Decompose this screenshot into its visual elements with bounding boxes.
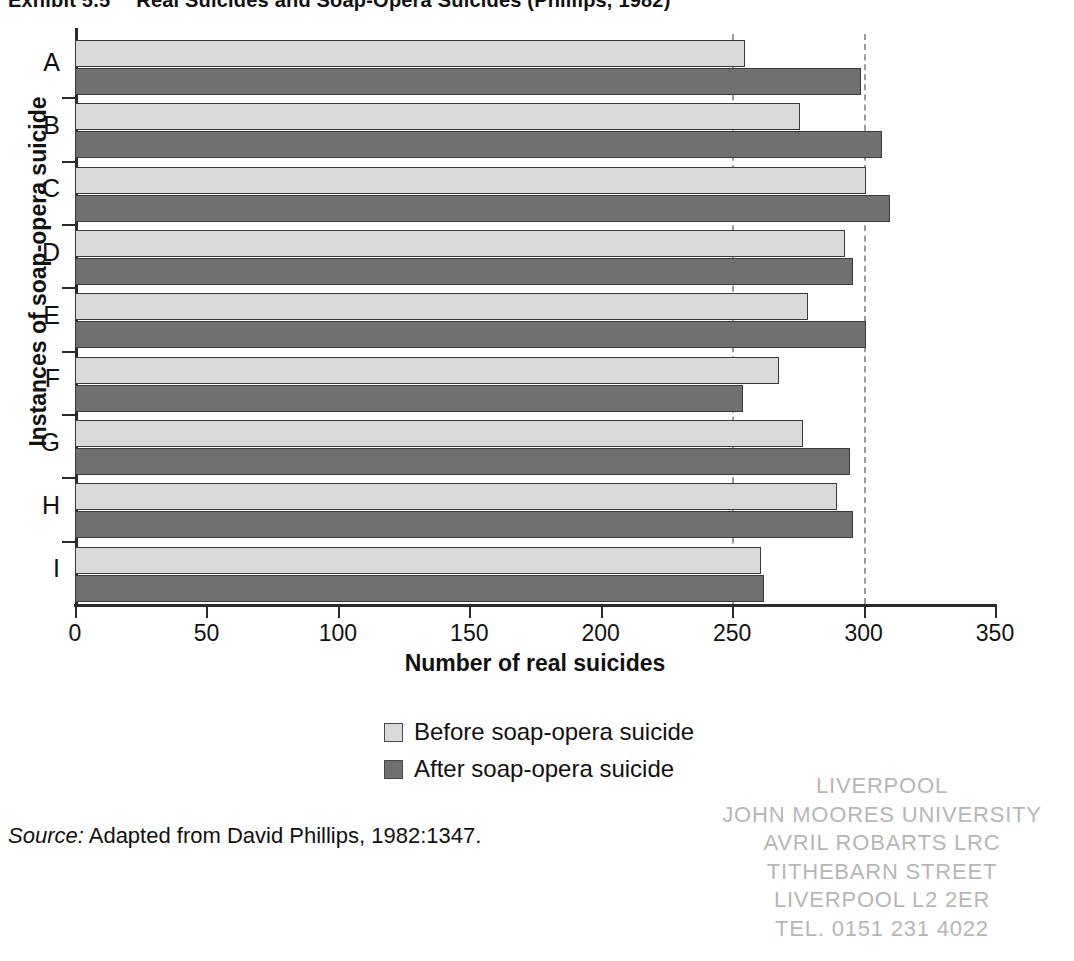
y-tick xyxy=(62,541,75,543)
bar-g-before xyxy=(75,420,803,447)
y-axis-label: Instances of soap-opera suicide xyxy=(25,0,52,552)
x-tick-label: 200 xyxy=(582,620,620,647)
x-tick xyxy=(995,604,997,618)
stamp-line: LIVERPOOL xyxy=(690,772,1074,801)
legend-swatch-before-icon xyxy=(384,723,403,742)
legend-label-after: After soap-opera suicide xyxy=(414,755,674,783)
x-tick-label: 0 xyxy=(69,620,82,647)
category-label-b: B xyxy=(20,111,60,140)
bar-f-before xyxy=(75,357,779,384)
stamp-line: AVRIL ROBARTS LRC xyxy=(690,829,1074,858)
x-tick-label: 100 xyxy=(319,620,357,647)
x-tick xyxy=(601,604,603,618)
stamp-line: LIVERPOOL L2 2ER xyxy=(690,886,1074,915)
y-tick xyxy=(62,414,75,416)
x-tick-label: 300 xyxy=(844,620,882,647)
x-tick-label: 150 xyxy=(450,620,488,647)
source-label: Source: xyxy=(8,823,84,848)
bar-g-after xyxy=(75,448,850,475)
bar-b-before xyxy=(75,103,800,130)
x-tick xyxy=(469,604,471,618)
category-label-h: H xyxy=(20,491,60,520)
bar-d-before xyxy=(75,230,845,257)
bar-e-after xyxy=(75,321,866,348)
x-tick xyxy=(732,604,734,618)
x-tick xyxy=(75,604,77,618)
bar-a-after xyxy=(75,68,861,95)
bar-d-after xyxy=(75,258,853,285)
legend-item-after: After soap-opera suicide xyxy=(384,755,694,783)
category-label-c: C xyxy=(20,174,60,203)
bar-e-before xyxy=(75,293,808,320)
y-tick xyxy=(62,161,75,163)
bar-i-before xyxy=(75,547,761,574)
x-tick xyxy=(206,604,208,618)
stamp-line: JOHN MOORES UNIVERSITY xyxy=(690,801,1074,830)
category-label-a: A xyxy=(20,47,60,76)
stamp-line: TITHEBARN STREET xyxy=(690,858,1074,887)
category-label-g: G xyxy=(20,427,60,456)
legend-item-before: Before soap-opera suicide xyxy=(384,718,694,746)
legend-swatch-after-icon xyxy=(384,760,403,779)
stamp-line: TEL. 0151 231 4022 xyxy=(690,915,1074,944)
bar-c-after xyxy=(75,195,890,222)
source-note: Source: Adapted from David Phillips, 198… xyxy=(8,823,481,849)
x-tick-label: 250 xyxy=(713,620,751,647)
exhibit-number: Exhibit 5.5 xyxy=(8,0,110,11)
x-axis-line xyxy=(74,604,996,607)
bar-b-after xyxy=(75,131,882,158)
gridline xyxy=(864,34,866,604)
page-title: Exhibit 5.5Real Suicides and Soap-Opera … xyxy=(8,0,671,12)
category-label-f: F xyxy=(20,364,60,393)
x-tick-label: 350 xyxy=(976,620,1014,647)
plot-area xyxy=(75,34,995,604)
title-text: Real Suicides and Soap-Opera Suicides (P… xyxy=(136,0,670,11)
bar-c-before xyxy=(75,167,866,194)
legend: Before soap-opera suicide After soap-ope… xyxy=(384,718,694,792)
bar-a-before xyxy=(75,40,745,67)
category-label-d: D xyxy=(20,237,60,266)
y-tick xyxy=(62,287,75,289)
y-tick xyxy=(62,97,75,99)
y-tick xyxy=(62,224,75,226)
legend-label-before: Before soap-opera suicide xyxy=(414,718,694,746)
x-tick-label: 50 xyxy=(194,620,220,647)
library-stamp: LIVERPOOLJOHN MOORES UNIVERSITYAVRIL ROB… xyxy=(690,772,1074,944)
bar-f-after xyxy=(75,385,743,412)
category-label-e: E xyxy=(20,301,60,330)
category-label-i: I xyxy=(20,554,60,583)
y-tick xyxy=(62,477,75,479)
source-text: Adapted from David Phillips, 1982:1347. xyxy=(84,823,481,848)
bar-h-after xyxy=(75,511,853,538)
x-tick xyxy=(338,604,340,618)
x-axis-label: Number of real suicides xyxy=(75,650,995,677)
y-tick xyxy=(62,351,75,353)
bar-i-after xyxy=(75,575,764,602)
bar-h-before xyxy=(75,483,837,510)
x-tick xyxy=(864,604,866,618)
